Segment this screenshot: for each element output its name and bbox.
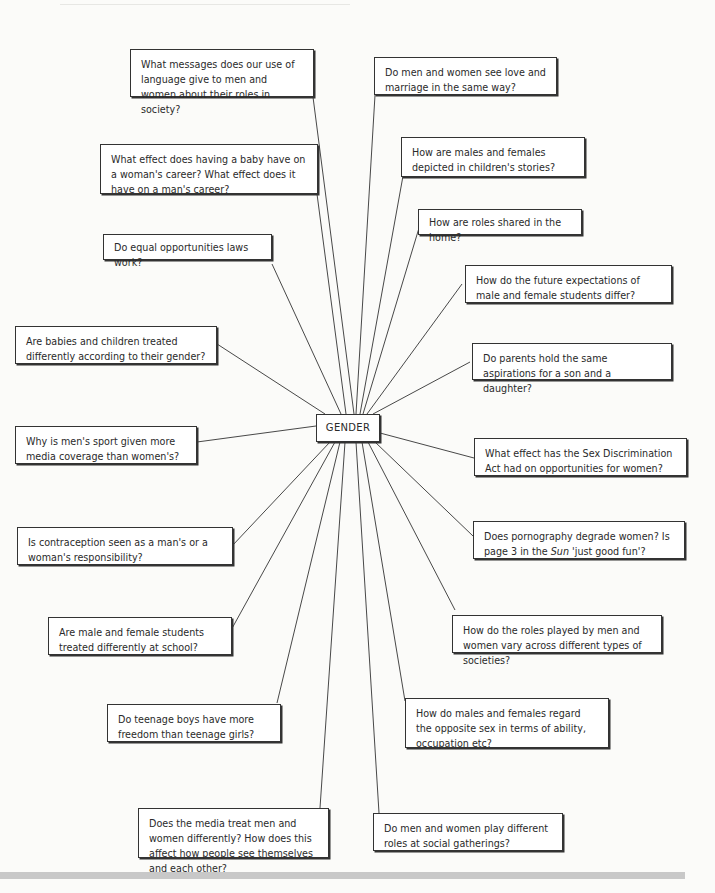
question-box-opposite-sex: How do males and females regard the oppo… bbox=[405, 698, 609, 748]
question-text: How do the future expectations of male a… bbox=[476, 275, 640, 301]
question-box-teenage-freedom: Do teenage boys have more freedom than t… bbox=[107, 704, 281, 742]
question-text: Do men and women play different roles at… bbox=[384, 823, 548, 849]
question-box-babies-children: Are babies and children treated differen… bbox=[15, 326, 217, 364]
question-box-social-gatherings: Do men and women play different roles at… bbox=[373, 813, 563, 851]
question-box-pornography: Does pornography degrade women? Is page … bbox=[473, 521, 685, 559]
question-box-language-roles: What messages does our use of language g… bbox=[130, 49, 314, 97]
center-label: GENDER bbox=[326, 422, 370, 433]
question-box-roles-societies: How do the roles played by men and women… bbox=[452, 615, 662, 653]
question-text: Is contraception seen as a man's or a wo… bbox=[28, 537, 208, 563]
question-text: Do teenage boys have more freedom than t… bbox=[118, 714, 254, 740]
question-text: How do males and females regard the oppo… bbox=[416, 708, 586, 749]
question-text: What effect has the Sex Discrimination A… bbox=[485, 448, 672, 474]
question-box-love-marriage: Do men and women see love and marriage i… bbox=[374, 57, 557, 95]
question-text-italic: Sun bbox=[551, 546, 569, 557]
question-box-parent-aspirations: Do parents hold the same aspirations for… bbox=[472, 343, 672, 380]
question-box-mens-sport: Why is men's sport given more media cove… bbox=[15, 426, 197, 464]
question-box-students-school: Are male and female students treated dif… bbox=[48, 617, 232, 655]
question-box-childrens-stories: How are males and females depicted in ch… bbox=[401, 137, 585, 177]
question-box-future-expectations: How do the future expectations of male a… bbox=[465, 265, 672, 303]
question-box-sex-discrimination-act: What effect has the Sex Discrimination A… bbox=[474, 438, 687, 476]
question-text: Are babies and children treated differen… bbox=[26, 336, 205, 362]
question-box-contraception: Is contraception seen as a man's or a wo… bbox=[17, 527, 233, 565]
question-box-baby-career: What effect does having a baby have on a… bbox=[100, 144, 318, 194]
footer-divider-bar bbox=[0, 872, 685, 879]
question-text: Do men and women see love and marriage i… bbox=[385, 67, 546, 93]
question-text: How are males and females depicted in ch… bbox=[412, 147, 555, 173]
question-text: Why is men's sport given more media cove… bbox=[26, 436, 179, 462]
question-text: Are male and female students treated dif… bbox=[59, 627, 204, 653]
question-box-roles-home: How are roles shared in the home? bbox=[418, 209, 582, 235]
center-node-gender: GENDER bbox=[316, 414, 380, 442]
question-text-post: 'just good fun'? bbox=[569, 546, 645, 557]
question-text: What effect does having a baby have on a… bbox=[111, 154, 305, 195]
question-box-media-treatment: Does the media treat men and women diffe… bbox=[138, 808, 329, 858]
question-box-equal-opportunities: Do equal opportunities laws work? bbox=[103, 234, 272, 260]
